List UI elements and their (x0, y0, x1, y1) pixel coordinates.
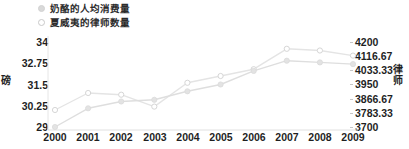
data-point-cheese-2009[interactable] (350, 62, 355, 67)
data-point-cheese-2008[interactable] (317, 60, 322, 65)
data-point-cheese-2003[interactable] (152, 97, 157, 102)
data-point-lawyers-2001[interactable] (86, 90, 91, 95)
data-point-lawyers-2005[interactable] (218, 73, 223, 78)
data-point-lawyers-2004[interactable] (185, 80, 190, 85)
data-point-cheese-2006[interactable] (251, 68, 256, 73)
data-point-cheese-2001[interactable] (86, 106, 91, 111)
data-point-cheese-2007[interactable] (284, 58, 289, 63)
data-point-cheese-2005[interactable] (218, 82, 223, 87)
data-point-lawyers-2007[interactable] (284, 46, 289, 51)
data-point-cheese-2004[interactable] (185, 89, 190, 94)
series-path-lawyers (55, 49, 353, 110)
data-point-cheese-2002[interactable] (119, 99, 124, 104)
data-point-lawyers-2000[interactable] (52, 107, 57, 112)
data-point-lawyers-2008[interactable] (317, 48, 322, 53)
data-point-lawyers-2009[interactable] (350, 53, 355, 58)
chart-container: 奶酪的人均消费量 夏威夷的律师数量 磅 律 师 34 32.75 31.5 30… (0, 0, 409, 149)
data-point-cheese-2000[interactable] (52, 124, 57, 129)
series-line-lawyers (52, 46, 355, 112)
data-point-lawyers-2003[interactable] (152, 104, 157, 109)
plot-area (0, 0, 409, 149)
data-point-lawyers-2002[interactable] (119, 92, 124, 97)
